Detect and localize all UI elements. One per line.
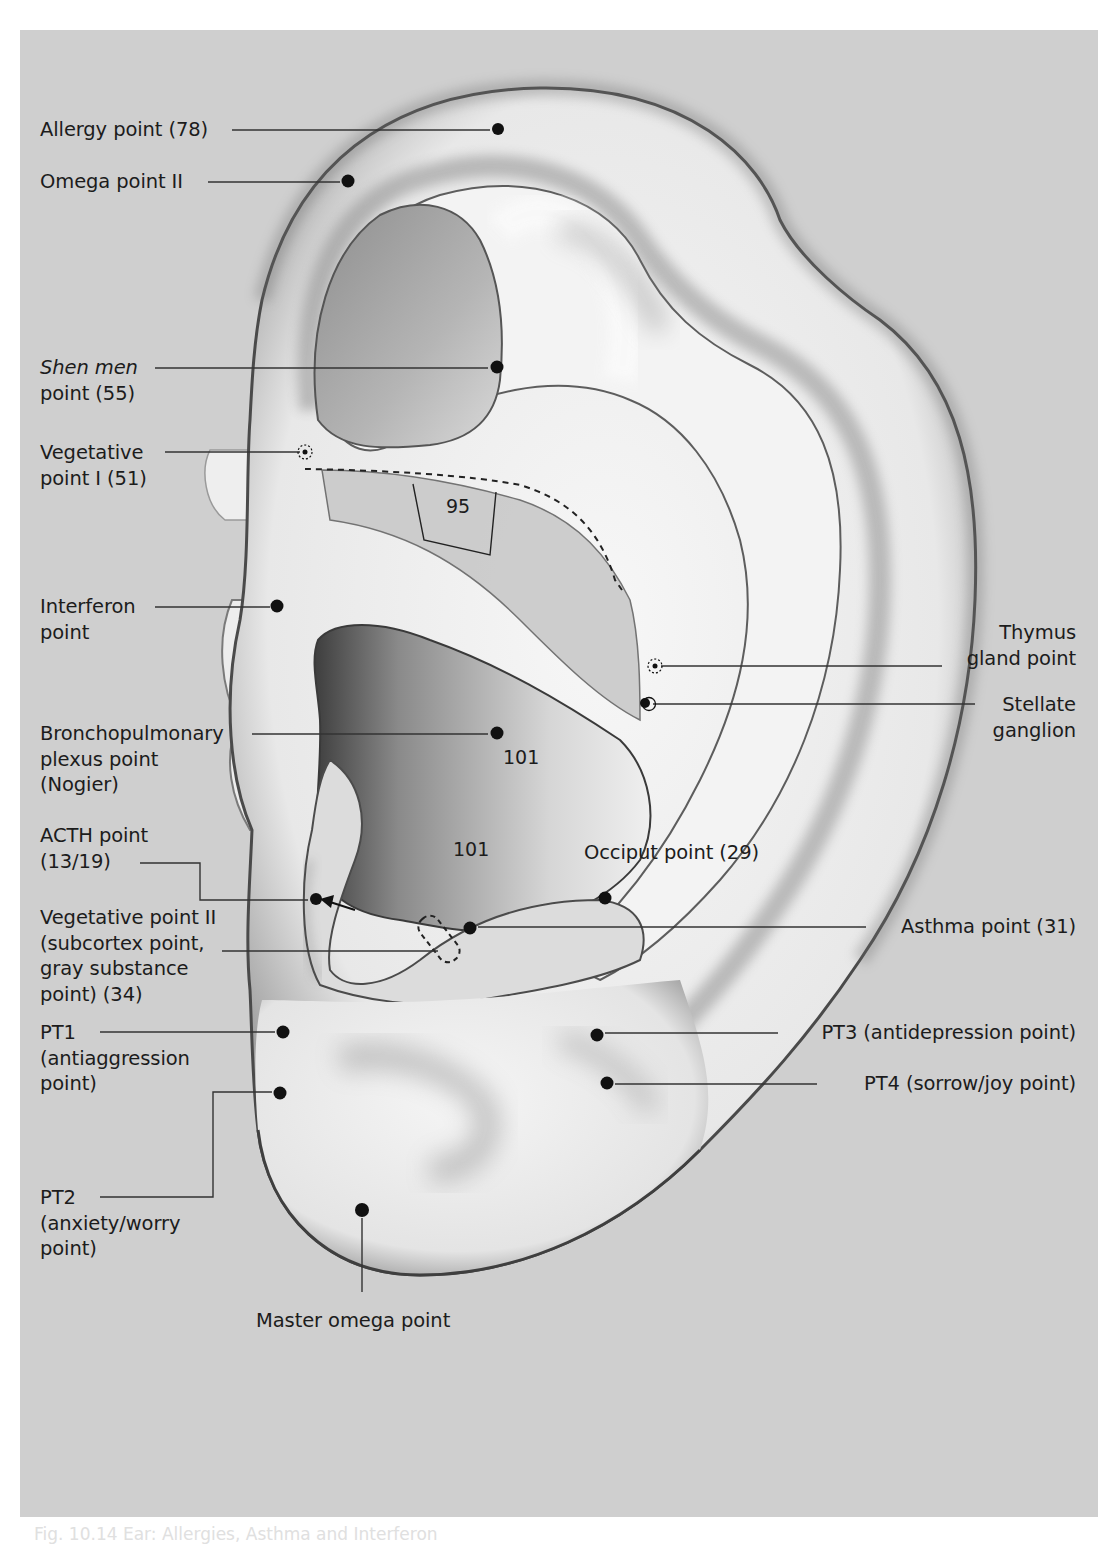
point-pt2[interactable] — [274, 1087, 287, 1100]
point-acth[interactable] — [310, 893, 322, 905]
point-pt4[interactable] — [601, 1077, 614, 1090]
label-vegetative-point-2: Vegetative point II (subcortex point, gr… — [40, 905, 216, 1007]
label-pt4: PT4 (sorrow/joy point) — [864, 1071, 1076, 1097]
label-vegetative-point-1: Vegetative point I (51) — [40, 440, 147, 491]
point-omega-2[interactable] — [342, 175, 355, 188]
point-shen-men[interactable] — [491, 361, 504, 374]
label-interferon-point: Interferon point — [40, 594, 136, 645]
label-acth-point: ACTH point (13/19) — [40, 823, 148, 874]
point-pt3[interactable] — [591, 1029, 604, 1042]
label-bronchopulmonary-plexus-point: Bronchopulmonary plexus point (Nogier) — [40, 721, 224, 798]
point-occiput[interactable] — [599, 892, 612, 905]
figure-caption: Fig. 10.14 Ear: Allergies, Asthma and In… — [34, 1524, 438, 1544]
label-thymus-gland-point: Thymus gland point — [967, 620, 1076, 671]
label-master-omega-point: Master omega point — [256, 1308, 450, 1334]
point-bronchopulmonary[interactable] — [491, 727, 504, 740]
label-pt1: PT1 (antiaggression point) — [40, 1020, 190, 1097]
point-asthma[interactable] — [464, 922, 477, 935]
label-pt3: PT3 (antidepression point) — [821, 1020, 1076, 1046]
zone-101-lower-label: 101 — [453, 838, 489, 860]
point-interferon[interactable] — [271, 600, 284, 613]
point-master-omega[interactable] — [355, 1203, 369, 1217]
label-pt2: PT2 (anxiety/worry point) — [40, 1185, 180, 1262]
zone-95-label: 95 — [446, 495, 470, 517]
point-pt1[interactable] — [277, 1026, 290, 1039]
label-shen-men-point: Shen men point (55) — [40, 355, 138, 406]
zone-101-upper-label: 101 — [503, 746, 539, 768]
point-allergy[interactable] — [492, 123, 504, 135]
label-occiput-point: Occiput point (29) — [584, 840, 759, 866]
label-stellate-ganglion: Stellate ganglion — [993, 692, 1076, 743]
label-omega-point-2: Omega point II — [40, 169, 183, 195]
label-asthma-point: Asthma point (31) — [901, 914, 1076, 940]
label-allergy-point: Allergy point (78) — [40, 117, 208, 143]
